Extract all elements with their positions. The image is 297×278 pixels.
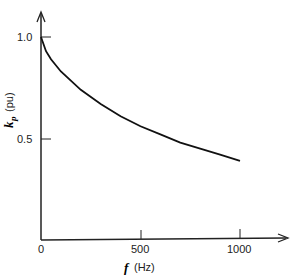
kp-curve bbox=[41, 37, 240, 161]
chart: 1.0 0.5 0 500 1000 f (Hz) k p (pu) bbox=[0, 0, 297, 278]
x-axis bbox=[41, 229, 288, 242]
x-tick-2: 1000 bbox=[227, 243, 251, 255]
x-tick-1: 500 bbox=[131, 243, 149, 255]
x-axis-label: f (Hz) bbox=[124, 260, 155, 275]
y-tick-2: 0.5 bbox=[17, 133, 32, 145]
svg-text:(Hz): (Hz) bbox=[134, 261, 155, 273]
svg-text:p: p bbox=[8, 116, 18, 122]
y-tick-1: 1.0 bbox=[17, 31, 32, 43]
svg-text:k: k bbox=[1, 121, 16, 128]
x-tick-0: 0 bbox=[38, 243, 44, 255]
svg-text:(pu): (pu) bbox=[3, 92, 15, 112]
svg-text:f: f bbox=[124, 260, 130, 275]
y-axis-label: k p (pu) bbox=[1, 92, 18, 128]
